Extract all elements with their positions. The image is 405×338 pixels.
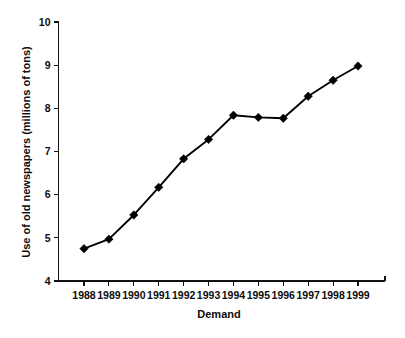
y-axis-title: Use of old newspapers (millions of tons) [20, 46, 32, 258]
x-tick-label: 1988 [72, 289, 96, 301]
chart-page: 45678910 1988198919901991199219931994199… [0, 0, 405, 338]
x-tick-label: 1995 [247, 289, 271, 301]
x-tick-label: 1992 [172, 289, 196, 301]
y-tick-label: 9 [45, 59, 51, 71]
x-tick-label: 1989 [97, 289, 121, 301]
x-tick-label: 1993 [197, 289, 221, 301]
x-tick-label: 1991 [147, 289, 171, 301]
y-tick-label: 5 [45, 232, 51, 244]
x-tick-label: 1999 [346, 289, 370, 301]
y-tick-label: 8 [45, 102, 51, 114]
x-axis-title: Demand [197, 308, 240, 320]
y-tick-label: 7 [45, 145, 51, 157]
y-tick-label: 4 [45, 275, 51, 287]
line-chart: 45678910 1988198919901991199219931994199… [0, 0, 405, 338]
x-tick-label: 1990 [122, 289, 146, 301]
chart-background [0, 0, 405, 338]
x-tick-label: 1994 [222, 289, 246, 301]
y-tick-label: 6 [45, 188, 51, 200]
x-tick-label: 1998 [321, 289, 345, 301]
x-tick-label: 1997 [297, 289, 321, 301]
y-tick-label: 10 [39, 16, 51, 28]
x-tick-label: 1996 [272, 289, 296, 301]
